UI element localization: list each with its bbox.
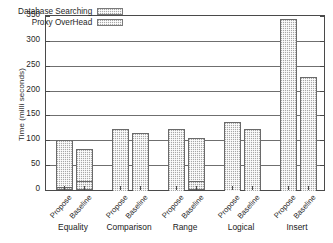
- y-axis-tick-label: 50: [14, 160, 40, 168]
- legend-entry: Proxy OverHead: [18, 17, 123, 28]
- x-axis-group-label: Insert: [269, 222, 325, 232]
- bar: [280, 19, 297, 190]
- bar: [76, 149, 93, 190]
- plot-area: [45, 15, 325, 191]
- bar-segment-database-searching: [77, 150, 92, 182]
- x-axis-group-label: Comparison: [101, 222, 157, 232]
- y-axis-tick-mark: [320, 190, 324, 191]
- y-axis-tick-label: 300: [14, 36, 40, 44]
- y-axis-tick-mark: [320, 140, 324, 141]
- bar-segment-database-searching: [225, 123, 240, 191]
- bar-segment-database-searching: [189, 139, 204, 183]
- bar: [168, 129, 185, 190]
- x-axis-tick-mark: [252, 186, 253, 190]
- bar-segment-database-searching: [113, 130, 128, 191]
- y-axis-tick-mark: [320, 41, 324, 42]
- bar: [56, 140, 73, 190]
- y-axis-tick-mark: [320, 115, 324, 116]
- x-axis-group-label: Equality: [45, 222, 101, 232]
- y-axis-tick-mark: [320, 66, 324, 67]
- bar-segment-database-searching: [301, 78, 316, 191]
- bar-chart: Time (milli seconds) 0501001502002503003…: [0, 0, 333, 243]
- x-axis-tick-mark: [232, 186, 233, 190]
- y-axis-tick-mark: [46, 115, 50, 116]
- chart-legend: Database SearchingProxy OverHead: [18, 6, 123, 28]
- legend-label: Proxy OverHead: [32, 18, 93, 27]
- y-axis-tick-mark: [46, 190, 50, 191]
- bar: [112, 129, 129, 190]
- x-axis-group-label: Range: [157, 222, 213, 232]
- y-axis-tick-label: 150: [14, 110, 40, 118]
- bar: [300, 77, 317, 190]
- y-axis-tick-label: 200: [14, 86, 40, 94]
- bar-segment-database-searching: [245, 130, 260, 191]
- y-axis-tick-label: 0: [14, 185, 40, 193]
- y-axis-tick-label: 250: [14, 61, 40, 69]
- y-axis-tick-mark: [46, 91, 50, 92]
- x-axis-tick-mark: [140, 186, 141, 190]
- y-axis-tick-mark: [46, 66, 50, 67]
- bar-segment-database-searching: [169, 130, 184, 191]
- bar-segment-database-searching: [133, 134, 148, 191]
- bar-segment-database-searching: [281, 20, 296, 191]
- x-axis-tick-mark: [120, 186, 121, 190]
- x-axis-tick-mark: [196, 186, 197, 190]
- y-axis-tick-mark: [46, 140, 50, 141]
- y-axis-tick-mark: [320, 16, 324, 17]
- x-axis-tick-mark: [176, 186, 177, 190]
- bar: [224, 122, 241, 190]
- y-axis-tick-mark: [320, 91, 324, 92]
- bar: [132, 133, 149, 190]
- bar: [188, 138, 205, 190]
- x-axis-group-label: Logical: [213, 222, 269, 232]
- bar: [244, 129, 261, 190]
- bar-segment-database-searching: [57, 141, 72, 189]
- x-axis-tick-mark: [84, 186, 85, 190]
- legend-entry: Database Searching: [18, 6, 123, 17]
- legend-label: Database Searching: [18, 7, 92, 16]
- y-axis-tick-mark: [46, 41, 50, 42]
- y-axis-tick-mark: [46, 165, 50, 166]
- y-axis-tick-mark: [320, 165, 324, 166]
- x-axis-tick-mark: [308, 186, 309, 190]
- y-axis-tick-labels: 050100150200250300350: [12, 0, 40, 243]
- legend-swatch: [97, 19, 123, 26]
- x-axis-tick-mark: [288, 186, 289, 190]
- y-axis-tick-label: 100: [14, 135, 40, 143]
- legend-swatch: [97, 8, 123, 15]
- x-axis-tick-mark: [64, 186, 65, 190]
